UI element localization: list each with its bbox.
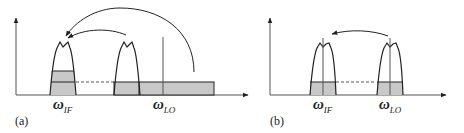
omega-if-label-a: ωIF: [53, 96, 72, 115]
short-arrow-a: [68, 30, 126, 38]
panel-b: [270, 18, 446, 95]
panel-label-a: (a): [15, 114, 28, 129]
long-arrow-a: [66, 8, 194, 72]
lo-noise-band-a: [114, 82, 214, 95]
omega-lo-label-b: ωLO: [379, 96, 401, 115]
omega-lo-label-a: ωLO: [153, 96, 175, 115]
omega-if-label-b: ωIF: [313, 96, 332, 115]
panel-a: [16, 8, 248, 95]
arrow-b: [332, 31, 388, 36]
panel-label-b: (b): [270, 114, 284, 129]
if-band-shaded-a: [51, 71, 75, 95]
